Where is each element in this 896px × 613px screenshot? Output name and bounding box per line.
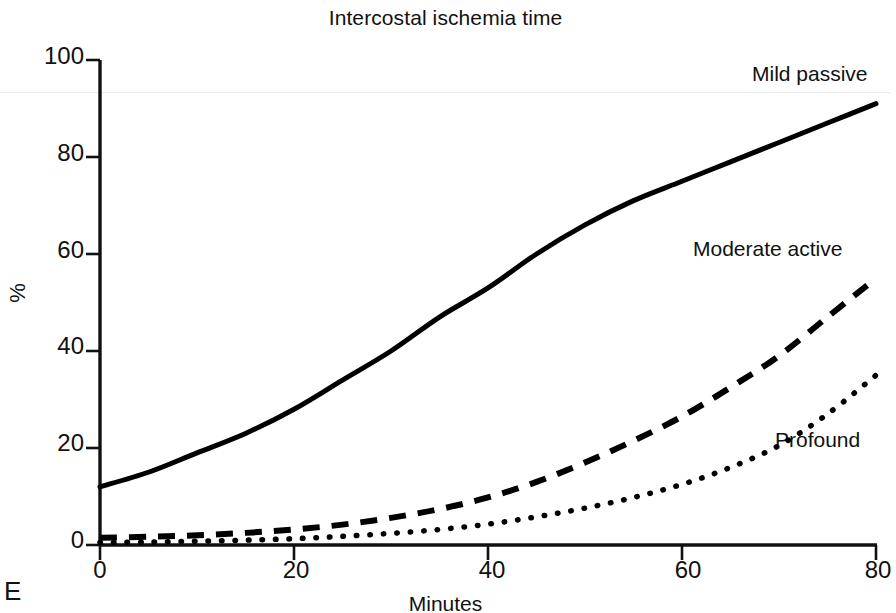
axis-lines bbox=[100, 60, 877, 545]
x-axis-ticks bbox=[100, 545, 876, 560]
y-axis-ticks bbox=[86, 60, 100, 545]
series-line-moderate-active bbox=[100, 278, 876, 537]
series-line-mild-passive bbox=[100, 104, 876, 487]
series-line-profound bbox=[100, 375, 876, 542]
